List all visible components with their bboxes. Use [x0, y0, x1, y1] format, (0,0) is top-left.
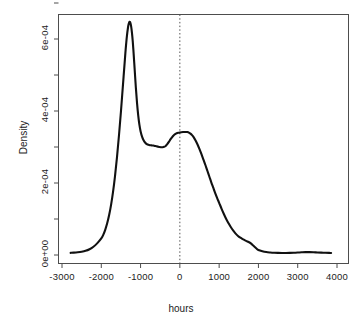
- data-layer: [71, 22, 331, 253]
- x-tick-label: 3000: [278, 271, 318, 282]
- x-tick-label: 4000: [317, 271, 357, 282]
- plot-frame: [59, 15, 349, 264]
- y-tick-label: 0e+00: [38, 232, 49, 276]
- x-tick-label: 0: [160, 271, 200, 282]
- y-tick-label: 4e-04: [38, 88, 49, 132]
- x-tick-label: -1000: [121, 271, 161, 282]
- x-tick-label: 1000: [199, 271, 239, 282]
- x-tick-label: 2000: [238, 271, 278, 282]
- density-plot-figure: -3000-2000-100001000200030004000 0e+002e…: [0, 0, 362, 326]
- y-axis-ticks: [54, 3, 59, 255]
- x-tick-label: -2000: [81, 271, 121, 282]
- x-axis-title: hours: [0, 303, 362, 314]
- y-tick-label: 2e-04: [38, 160, 49, 204]
- x-axis-ticks: [62, 264, 337, 269]
- y-tick-label: 6e-04: [38, 16, 49, 60]
- y-axis-title: Density: [18, 93, 29, 183]
- plot-box-border: [59, 15, 349, 264]
- density-curve: [71, 22, 331, 253]
